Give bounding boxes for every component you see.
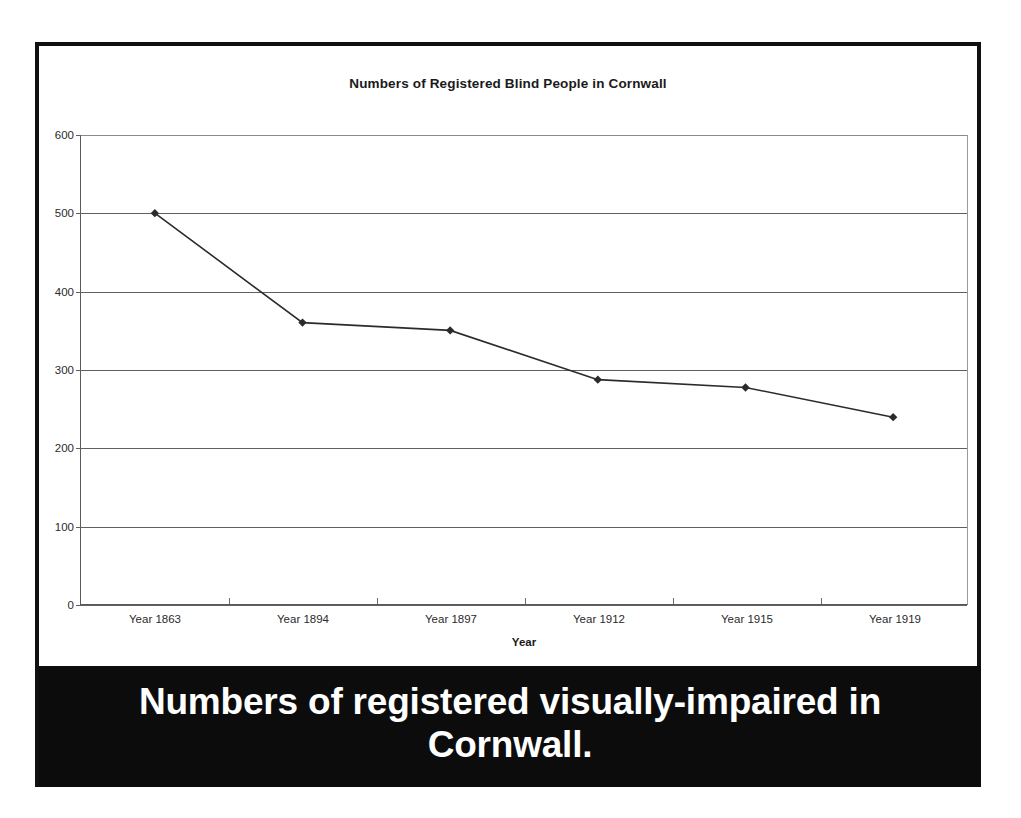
x-tick-label-0: Year 1863: [129, 613, 181, 625]
x-tick-label-3: Year 1912: [573, 613, 625, 625]
x-tick-label-5: Year 1919: [869, 613, 921, 625]
caption-text: Numbers of registered visually-impaired …: [87, 681, 933, 767]
chart-panel: Numbers of Registered Blind People in Co…: [39, 46, 977, 666]
y-tick-label-500: 500: [55, 207, 74, 219]
y-tick-label-600: 600: [55, 129, 74, 141]
x-axis-title: Year: [81, 636, 967, 648]
series-line: [155, 213, 893, 417]
line-series: [81, 135, 967, 604]
y-tick-label-100: 100: [55, 521, 74, 533]
y-tick-label-200: 200: [55, 442, 74, 454]
y-tick-label-0: 0: [68, 599, 74, 611]
figure-frame: Numbers of Registered Blind People in Co…: [35, 42, 981, 787]
data-point-2: [446, 326, 454, 334]
data-point-4: [741, 383, 749, 391]
plot-area: 0100200300400500600 Year 1863Year 1894Ye…: [80, 135, 968, 605]
x-tick-label-1: Year 1894: [277, 613, 329, 625]
x-tick-label-4: Year 1915: [721, 613, 773, 625]
y-tick-label-300: 300: [55, 364, 74, 376]
y-tick-mark-0: [76, 605, 81, 606]
y-tick-label-400: 400: [55, 286, 74, 298]
x-tick-label-2: Year 1897: [425, 613, 477, 625]
chart-title: Numbers of Registered Blind People in Co…: [39, 76, 977, 91]
gridline-0: [81, 605, 967, 606]
data-point-3: [594, 375, 602, 383]
caption-banner: Numbers of registered visually-impaired …: [39, 666, 981, 787]
data-point-5: [889, 413, 897, 421]
